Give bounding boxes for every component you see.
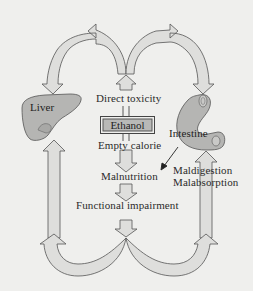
arrow-top-right xyxy=(126,24,214,94)
arrow-to-malnutrition xyxy=(115,150,137,172)
ethanol-box: Ethanol xyxy=(100,116,155,134)
ethanol-label: Ethanol xyxy=(110,119,144,131)
arrow-center-up xyxy=(116,75,136,90)
label-functional-impairment: Functional impairment xyxy=(76,199,179,211)
arrow-bottom-left xyxy=(40,234,126,276)
label-direct-toxicity: Direct toxicity xyxy=(96,92,161,104)
arrow-bottom-right xyxy=(126,234,218,276)
label-intestine: Intestine xyxy=(169,127,208,139)
arrow-top-left xyxy=(42,24,126,94)
intestine-illustration xyxy=(177,95,225,150)
label-malnutrition: Malnutrition xyxy=(101,170,158,182)
label-empty-calorie: Empty calorie xyxy=(98,139,161,151)
arrow-left-vertical xyxy=(43,140,65,238)
label-maldigestion: Maldigestion xyxy=(173,164,232,176)
label-liver: Liver xyxy=(30,101,54,113)
arrow-to-bottom xyxy=(115,220,137,237)
label-malabsorption: Malabsorption xyxy=(173,176,238,188)
